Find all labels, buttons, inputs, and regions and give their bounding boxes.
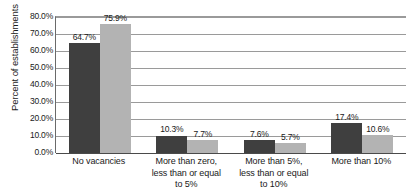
bar <box>100 24 131 153</box>
data-label: 10.6% <box>355 124 400 134</box>
y-axis-tick-label: 70.0% <box>17 28 53 38</box>
bar-chart: Percent of establishments 80.0%70.0%60.0… <box>0 0 409 193</box>
y-axis-tick-label: 80.0% <box>17 11 53 21</box>
data-label: 7.7% <box>180 129 225 139</box>
x-axis-category-label-line: More than zero, <box>136 156 238 168</box>
x-axis-category-label: More than zero,less than or equalto 5% <box>136 156 238 191</box>
x-axis-category-labels: No vacanciesMore than zero,less than or … <box>55 156 405 193</box>
y-axis-tick-label: 30.0% <box>17 96 53 106</box>
bar <box>362 135 393 153</box>
bar <box>187 140 218 153</box>
x-axis-category-label-line: More than 5%, <box>223 156 325 168</box>
bar <box>275 143 306 153</box>
y-axis-tick-label: 40.0% <box>17 79 53 89</box>
y-axis-tick-label: 50.0% <box>17 62 53 72</box>
y-axis-tick-label: 10.0% <box>17 130 53 140</box>
data-label: 17.4% <box>324 112 369 122</box>
x-axis-category-label: More than 10% <box>311 156 409 168</box>
x-axis-category-label: No vacancies <box>48 156 150 168</box>
x-axis-category-label-line: to 10% <box>223 179 325 191</box>
x-axis-category-label-line: More than 10% <box>311 156 409 168</box>
x-axis-category-label: More than 5%,less than or equalto 10% <box>223 156 325 191</box>
x-axis-category-label-line: No vacancies <box>48 156 150 168</box>
x-axis-category-label-line: less than or equal <box>223 168 325 180</box>
data-label: 75.9% <box>93 13 138 23</box>
data-label: 5.7% <box>268 132 313 142</box>
y-axis-tick-label: 60.0% <box>17 45 53 55</box>
plot-area: 64.7%75.9%10.3%7.7%7.6%5.7%17.4%10.6% <box>55 16 406 153</box>
x-axis-line <box>56 153 406 154</box>
y-axis-tick-label: 20.0% <box>17 113 53 123</box>
x-axis-category-label-line: less than or equal <box>136 168 238 180</box>
x-axis-category-label-line: to 5% <box>136 179 238 191</box>
data-label: 64.7% <box>62 32 107 42</box>
bar <box>69 43 100 153</box>
